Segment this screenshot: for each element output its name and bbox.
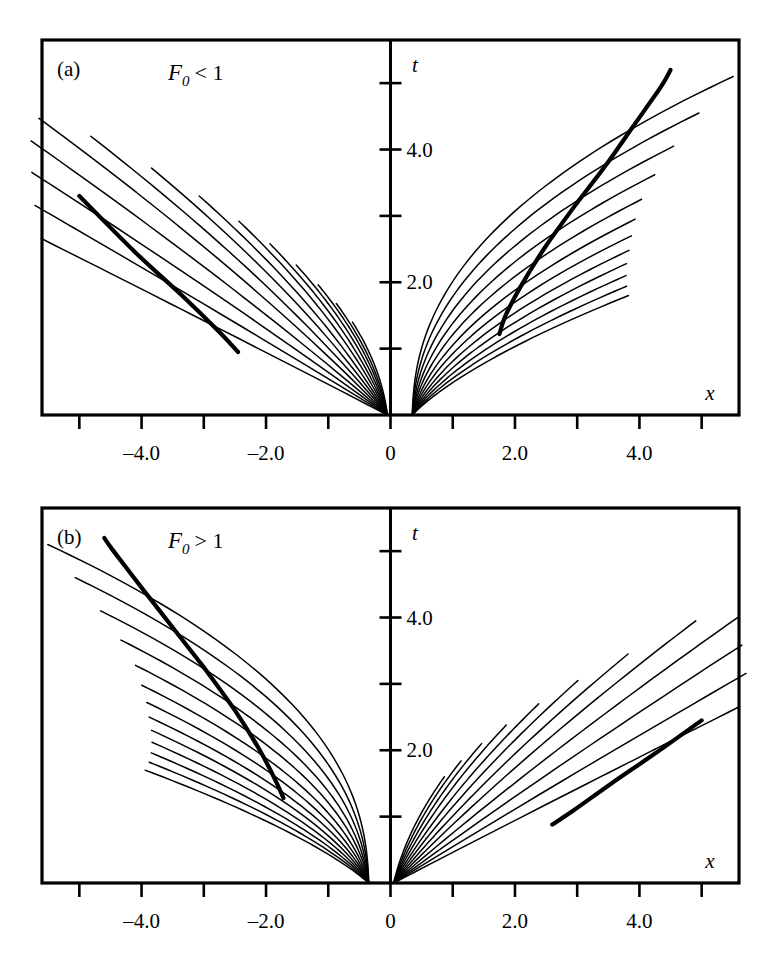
characteristic-curve [35,205,387,415]
characteristic-curve [412,77,733,416]
panel-a-condition-relation: < 1 [195,60,224,85]
t-axis-tick-label: 2.0 [407,270,433,294]
characteristic-curve [48,545,369,884]
x-axis-tick-label: –4.0 [122,441,160,465]
x-axis-tick-label: –4.0 [122,909,160,933]
panel-b: 2.04.0–4.0–2.002.04.0 (b) F0> 1 x t [0,480,780,960]
t-axis-tick-label: 2.0 [407,738,433,762]
panel-a-plot: 2.04.0–4.0–2.002.04.0 (a) F0< 1 x t [0,0,780,480]
x-axis-tick-label: 0 [385,441,396,465]
x-axis-tick-label: 0 [385,909,396,933]
characteristic-curve [412,250,629,415]
panel-b-letter: (b) [57,525,82,549]
panel-b-condition-symbol: F [167,528,183,553]
x-axis-tick-label: 4.0 [626,909,652,933]
panel-a-t-axis-name: t [412,53,419,77]
panel-a-axes: 2.04.0–4.0–2.002.04.0 [79,40,701,465]
panel-a-condition-symbol: F [167,60,183,85]
caustic-line [204,667,284,798]
characteristic-curve [31,141,387,415]
panel-b-labels: (b) F0> 1 x t [57,521,715,873]
panel-b-axes: 2.04.0–4.0–2.002.04.0 [79,508,701,933]
characteristic-curve [152,168,388,415]
characteristic-curve [32,172,388,415]
characteristic-curve [412,286,626,415]
panel-a: 2.04.0–4.0–2.002.04.0 (a) F0< 1 x t [0,0,780,480]
characteristic-curve [239,221,387,415]
panel-b-plot: 2.04.0–4.0–2.002.04.0 (b) F0> 1 x t [0,480,780,960]
panel-b-x-axis-name: x [704,849,715,873]
panel-b-condition-relation: > 1 [195,528,224,553]
x-axis-tick-label: 4.0 [626,441,652,465]
characteristic-curve [145,770,369,883]
characteristic-curve [75,578,369,883]
panel-a-x-axis-name: x [704,381,715,405]
panel-b-curves [48,538,746,883]
panel-b-condition-subscript: 0 [182,541,190,557]
characteristic-curve [394,673,746,883]
characteristics-figure: 2.04.0–4.0–2.002.04.0 (a) F0< 1 x t 2.04… [0,0,780,960]
x-axis-tick-label: 2.0 [502,441,528,465]
panel-a-curves [31,70,733,415]
panel-a-condition: F0< 1 [167,60,223,89]
caustic-line [577,70,670,203]
x-axis-tick-label: 2.0 [502,909,528,933]
panel-b-t-axis-name: t [412,521,419,545]
characteristic-curve [412,113,699,415]
caustic-line [104,538,204,667]
t-axis-tick-label: 4.0 [407,138,433,162]
characteristic-curve [394,645,742,883]
panel-a-letter: (a) [57,57,80,81]
panel-a-condition-subscript: 0 [182,73,190,89]
x-axis-tick-label: –2.0 [247,909,285,933]
characteristic-curve [394,707,740,883]
characteristic-curve [394,654,628,883]
panel-b-condition: F0> 1 [167,528,223,557]
x-axis-tick-label: –2.0 [247,441,285,465]
characteristic-curve [394,617,739,883]
t-axis-tick-label: 4.0 [407,606,433,630]
